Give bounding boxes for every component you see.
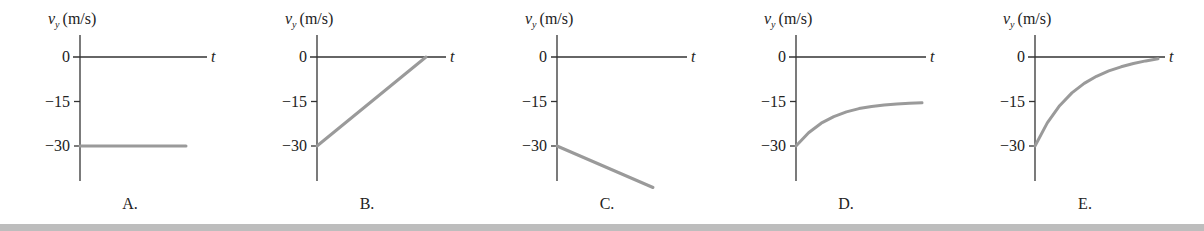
x-axis-label: t <box>450 48 455 65</box>
y-tick-label: 0 <box>299 48 307 65</box>
y-tick-label: −15 <box>761 93 786 110</box>
y-tick-label: −15 <box>282 93 307 110</box>
y-axis-label: vy(m/s) <box>285 10 333 30</box>
y-tick-label: −15 <box>1000 93 1025 110</box>
panel-d: tvy(m/s)0−15−30D. <box>761 10 935 212</box>
panel-label: C. <box>600 195 615 212</box>
panel-label: D. <box>838 195 854 212</box>
panel-e: tvy(m/s)0−15−30E. <box>1000 10 1174 212</box>
y-tick-label: −30 <box>522 137 547 154</box>
x-axis-label: t <box>691 48 696 65</box>
panel-label: B. <box>360 195 375 212</box>
y-axis-label: vy(m/s) <box>48 10 96 30</box>
y-tick-label: 0 <box>1017 48 1025 65</box>
y-axis-label: vy(m/s) <box>1003 10 1051 30</box>
bottom-divider-bar <box>0 224 1204 231</box>
x-axis-label: t <box>211 48 216 65</box>
panel-a: tvy(m/s)0−15−30A. <box>45 10 216 212</box>
x-axis-label: t <box>1169 48 1174 65</box>
data-line <box>557 146 653 188</box>
x-axis-label: t <box>930 48 935 65</box>
y-axis-label: vy(m/s) <box>525 10 573 30</box>
y-tick-label: −15 <box>522 93 547 110</box>
y-tick-label: −15 <box>45 93 70 110</box>
y-tick-label: −30 <box>761 137 786 154</box>
panel-label: E. <box>1078 195 1092 212</box>
chart-canvas: tvy(m/s)0−15−30A.tvy(m/s)0−15−30B.tvy(m/… <box>0 0 1204 231</box>
y-tick-label: 0 <box>778 48 786 65</box>
panel-b: tvy(m/s)0−15−30B. <box>282 10 455 212</box>
y-tick-label: 0 <box>539 48 547 65</box>
data-line <box>317 57 426 146</box>
data-line <box>1035 59 1158 146</box>
y-tick-label: 0 <box>62 48 70 65</box>
y-axis-label: vy(m/s) <box>764 10 812 30</box>
panel-label: A. <box>122 195 138 212</box>
panel-c: tvy(m/s)0−15−30C. <box>522 10 696 212</box>
velocity-graphs-figure: tvy(m/s)0−15−30A.tvy(m/s)0−15−30B.tvy(m/… <box>0 0 1204 231</box>
data-line <box>796 103 922 146</box>
y-tick-label: −30 <box>45 137 70 154</box>
y-tick-label: −30 <box>282 137 307 154</box>
y-tick-label: −30 <box>1000 137 1025 154</box>
